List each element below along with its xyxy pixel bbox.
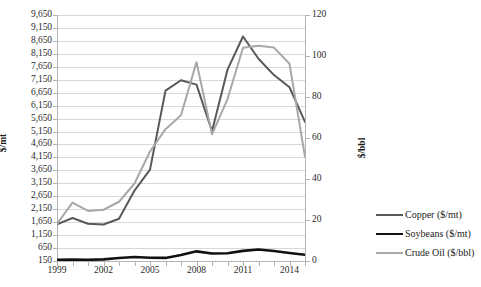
left-axis-tick-label: 7,150 [31,75,52,84]
x-axis-tick [228,262,229,266]
x-axis-tick [73,262,74,266]
x-axis-tick-label: 2014 [280,265,299,275]
left-axis-tick-label: 8,150 [31,49,52,58]
right-axis-tick [306,97,310,98]
left-axis-tick-label: 4,650 [31,139,52,148]
x-axis-tick-label: 2008 [187,265,206,275]
right-axis-title: $/bbl [357,138,367,159]
x-axis-tick [259,262,260,266]
left-axis-tick-label: 650 [38,243,52,252]
left-axis-tick-label: 2,150 [31,204,52,213]
x-axis-tick [119,262,120,266]
commodity-price-line-chart: 9,6509,1508,6508,1507,6507,1506,6506,150… [0,0,481,287]
legend-item[interactable]: Copper ($/mt) [376,205,474,224]
right-axis-tick-label: 100 [312,51,326,60]
left-axis-tick-label: 9,650 [31,10,52,19]
right-axis-line [305,15,306,261]
left-axis-tick-label: 3,650 [31,165,52,174]
right-axis-tick [306,261,310,262]
chart-legend: Copper ($/mt)Soybeans ($/mt)Crude Oil ($… [376,205,474,262]
left-axis-tick-label: 5,650 [31,114,52,123]
left-axis-tick-label: 2,650 [31,191,52,200]
x-axis-tick [212,262,213,266]
series-line [57,36,305,224]
left-axis-tick-label: 3,150 [31,178,52,187]
right-axis-tick [306,220,310,221]
left-axis-tick-label: 1,150 [31,230,52,239]
series-line [57,250,305,260]
legend-swatch-icon [376,214,403,216]
x-axis-tick [274,262,275,266]
x-axis-tick [166,262,167,266]
right-axis-tick-label: 20 [312,215,322,224]
left-axis-title: $/mt [0,134,8,152]
legend-label: Copper ($/mt) [405,209,462,220]
x-axis-tick [181,262,182,266]
right-axis-tick [306,15,310,16]
left-axis-tick-label: 9,150 [31,23,52,32]
x-axis-tick [135,262,136,266]
x-axis-tick [305,262,306,266]
legend-label: Crude Oil ($/bbl) [405,247,474,258]
x-axis-tick-label: 2011 [234,265,253,275]
x-axis-tick [88,262,89,266]
right-axis-tick [306,138,310,139]
legend-item[interactable]: Crude Oil ($/bbl) [376,243,474,262]
legend-item[interactable]: Soybeans ($/mt) [376,224,474,243]
bottom-axis-line [57,261,306,262]
right-axis-tick-label: 0 [312,256,317,265]
left-axis-tick-label: 6,650 [31,88,52,97]
legend-swatch-icon [376,233,403,235]
right-axis-tick [306,56,310,57]
left-axis-tick-label: 1,650 [31,217,52,226]
right-axis-tick-label: 60 [312,133,322,142]
left-axis-tick-label: 6,150 [31,101,52,110]
right-axis-tick-label: 80 [312,92,322,101]
left-axis-tick-label: 4,150 [31,152,52,161]
x-axis-tick-label: 2005 [141,265,160,275]
right-axis-tick-label: 40 [312,174,322,183]
left-axis-tick-label: 150 [38,256,52,265]
legend-swatch-icon [376,252,403,254]
x-axis-tick-label: 2002 [94,265,113,275]
plot-series-area [57,15,305,261]
legend-label: Soybeans ($/mt) [405,228,471,239]
series-line [57,46,305,224]
left-axis-tick-label: 8,650 [31,36,52,45]
left-axis-tick-label: 7,650 [31,62,52,71]
right-axis-tick-label: 120 [312,10,326,19]
x-axis-tick-label: 1999 [48,265,67,275]
right-axis-tick [306,179,310,180]
left-axis-tick-label: 5,150 [31,127,52,136]
